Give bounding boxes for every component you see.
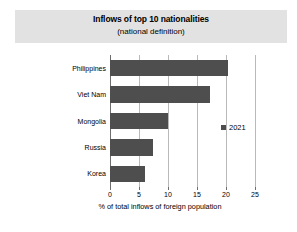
- xtick-label-10: 10: [158, 190, 178, 199]
- bar-row: [110, 134, 256, 160]
- bar-philippines: [110, 60, 228, 76]
- chart-figure: Inflows of top 10 nationalities (nationa…: [0, 0, 297, 232]
- xtick-label-20: 20: [216, 190, 236, 199]
- legend-square-icon: [221, 125, 226, 130]
- plot-area: 2021: [110, 55, 256, 187]
- bar-viet-nam: [110, 86, 210, 102]
- chart-title-band: Inflows of top 10 nationalities (nationa…: [15, 10, 287, 43]
- bar-russia: [110, 139, 153, 155]
- category-label-mongolia: Mongolia: [36, 117, 106, 126]
- category-label-russia: Russia: [36, 143, 106, 152]
- xtick-label-5: 5: [129, 190, 149, 199]
- bar-row: [110, 161, 256, 187]
- category-label-viet-nam: Viet Nam: [36, 90, 106, 99]
- xtick-label-15: 15: [187, 190, 207, 199]
- bar-row: [110, 55, 256, 81]
- x-axis-title: % of total inflows of foreign population: [60, 202, 260, 212]
- bar-mongolia: [110, 113, 168, 129]
- chart-legend: 2021: [221, 123, 246, 132]
- chart-subtitle: (national definition): [15, 26, 287, 37]
- xtick-label-0: 0: [100, 190, 120, 199]
- category-label-korea: Korea: [36, 169, 106, 178]
- legend-label-2021: 2021: [229, 123, 246, 132]
- x-axis-tick-labels: 0 5 10 15 20 25: [110, 190, 256, 202]
- xtick-label-25: 25: [245, 190, 265, 199]
- category-axis-labels: Philippines Viet Nam Mongolia Russia Kor…: [34, 55, 106, 187]
- page-title: Inflows of top 10 nationalities: [15, 14, 287, 25]
- bar-korea: [110, 166, 145, 182]
- category-label-philippines: Philippines: [36, 64, 106, 73]
- bar-row: [110, 81, 256, 107]
